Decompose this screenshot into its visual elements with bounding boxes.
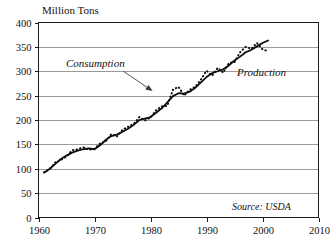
y-tick-label: 200	[16, 115, 32, 126]
annotation-production-label: Production	[236, 66, 287, 78]
y-tick-label: 150	[16, 139, 32, 150]
y-tick-label: 350	[16, 42, 32, 53]
annotation-consumption-label: Consumption	[66, 57, 125, 69]
x-tick-label: 1990	[197, 225, 218, 236]
x-tick-label: 2010	[309, 225, 330, 236]
x-tick-label: 2000	[253, 225, 274, 236]
x-tick-label: 1980	[141, 225, 162, 236]
y-tick-label: 400	[16, 18, 32, 29]
y-axis-title: Million Tons	[42, 4, 99, 16]
chart-canvas: 050100150200250300350400 196019701980199…	[0, 0, 335, 252]
chart-figure: 050100150200250300350400 196019701980199…	[0, 0, 335, 252]
y-tick-label: 50	[21, 188, 32, 199]
x-tick-label: 1960	[29, 225, 50, 236]
y-tick-label: 300	[16, 66, 32, 77]
y-tick-label: 0	[26, 213, 31, 224]
x-tick-label: 1970	[85, 225, 106, 236]
figure-background	[0, 0, 335, 252]
y-tick-label: 250	[16, 91, 32, 102]
source-label: Source: USDA	[232, 201, 292, 212]
y-tick-label: 100	[16, 164, 32, 175]
